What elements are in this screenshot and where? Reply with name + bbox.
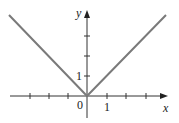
y-axis-label: y [75,6,82,20]
y-tick-label-1: 1 [76,69,82,83]
y-axis-arrow-icon [84,10,90,18]
origin-label: 0 [77,98,83,112]
x-axis-label: x [162,101,169,115]
x-tick-label-1: 1 [104,100,110,114]
x-axis-arrow-icon [160,93,168,99]
graph: y x 0 1 1 [0,0,179,123]
